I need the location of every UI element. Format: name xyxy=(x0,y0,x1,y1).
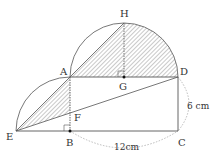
geometry-diagram: H A D G F E B C 12cm 6 cm xyxy=(0,0,212,158)
label-a: A xyxy=(59,66,68,77)
label-f: F xyxy=(74,112,81,123)
point-b-dot xyxy=(69,130,72,133)
segment-ed xyxy=(16,77,178,131)
label-c: C xyxy=(178,137,186,148)
label-e: E xyxy=(6,131,13,142)
label-b: B xyxy=(66,137,73,148)
measurement-dc: 6 cm xyxy=(187,101,210,111)
label-g: G xyxy=(119,81,127,92)
measurement-bc: 12cm xyxy=(114,142,139,152)
label-h: H xyxy=(120,8,129,19)
point-g-dot xyxy=(123,76,126,79)
label-d: D xyxy=(180,66,188,77)
